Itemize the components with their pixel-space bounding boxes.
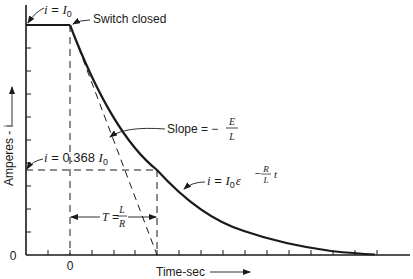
decay-equation-label: i = I0ε − R L t	[207, 164, 278, 190]
svg-text:i = I0ε: i = I0ε	[207, 173, 242, 190]
svg-text:R: R	[262, 164, 269, 174]
at-time-constant-leader	[27, 159, 43, 169]
labels: i = I0 Switch closed Slope = − E L i = 0…	[2, 2, 278, 279]
svg-text:T =: T =	[102, 210, 119, 224]
svg-text:L: L	[262, 175, 268, 185]
svg-text:L: L	[118, 204, 125, 215]
switch-closed-label: Switch closed	[93, 12, 166, 26]
svg-text:t: t	[274, 168, 278, 180]
leader-arrows	[12, 8, 250, 272]
initial-current-label: i = I0	[44, 2, 72, 19]
y-origin-label: 0	[10, 249, 17, 263]
svg-text:Slope = −: Slope = −	[167, 122, 218, 136]
current-curve	[26, 25, 375, 255]
at-time-constant-label: i = 0.368 I0	[44, 150, 108, 167]
switch-closed-leader	[73, 20, 90, 24]
initial-current-leader	[28, 8, 44, 23]
decay-equation-leader	[184, 182, 205, 189]
svg-text:L: L	[228, 131, 235, 142]
svg-text:−: −	[255, 168, 261, 179]
x-origin-label: 0	[67, 259, 74, 273]
svg-text:E: E	[228, 116, 235, 127]
svg-text:R: R	[118, 218, 125, 229]
y-axis-title: Amperes - i	[2, 125, 16, 186]
reference-lines	[26, 25, 157, 255]
slope-leader	[110, 128, 165, 137]
slope-label: Slope = − E L	[167, 116, 238, 142]
time-constant-label: T = L R	[102, 204, 127, 229]
x-axis-title: Time-sec	[156, 265, 205, 279]
rl-current-decay-diagram: i = I0 Switch closed Slope = − E L i = 0…	[0, 0, 413, 279]
